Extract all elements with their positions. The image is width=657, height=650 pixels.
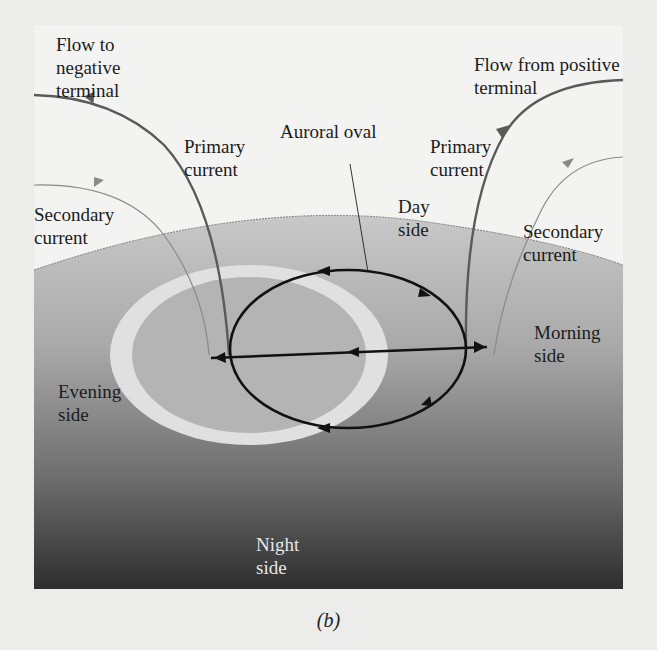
diagram-panel: Flow to negative terminal Flow from posi… <box>34 25 623 589</box>
auroral-current-diagram <box>34 25 623 589</box>
label-auroral-oval: Auroral oval <box>280 120 377 143</box>
label-evening-side: Evening side <box>58 380 121 426</box>
label-flow-negative-terminal: Flow to negative terminal <box>56 33 120 102</box>
primary-current-right-arrow <box>496 125 510 138</box>
label-night-side: Night side <box>256 533 299 579</box>
label-primary-current-right: Primary current <box>430 135 491 181</box>
polar-cap <box>132 277 366 433</box>
figure-caption: (b) <box>0 609 657 632</box>
label-secondary-current-left: Secondary current <box>34 203 114 249</box>
label-flow-positive-terminal: Flow from positive terminal <box>474 53 620 99</box>
label-primary-current-left: Primary current <box>184 135 245 181</box>
secondary-current-left-arrow <box>94 177 104 187</box>
secondary-current-right-arrow <box>562 158 574 168</box>
label-secondary-current-right: Secondary current <box>523 220 603 266</box>
label-day-side: Day side <box>398 195 430 241</box>
label-morning-side: Morning side <box>534 321 601 367</box>
